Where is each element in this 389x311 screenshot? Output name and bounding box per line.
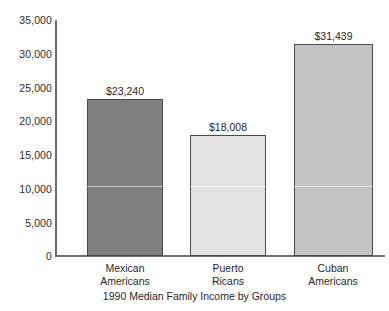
bar-cuban-americans	[294, 44, 373, 256]
y-tick-label: 25,000	[4, 83, 52, 93]
y-tick-5000: 5,000	[0, 218, 52, 228]
y-tick-10000: 10,000	[0, 184, 52, 194]
y-axis-line	[55, 20, 57, 257]
y-tick-label: 30,000	[4, 49, 52, 59]
bar-value-cuban-americans: $31,439	[294, 30, 373, 42]
y-tick-20000: 20,000	[0, 116, 52, 126]
y-tick-label: 15,000	[4, 150, 52, 160]
bar-mexican-americans	[87, 99, 163, 256]
chart-screenshot: 35,000 30,000 25,000 20,000 15,000 10,00…	[0, 0, 389, 311]
category-label-line-1: Puerto	[183, 262, 273, 275]
y-tick-15000: 15,000	[0, 150, 52, 160]
y-tick-25000: 25,000	[0, 83, 52, 93]
category-label-line-2: Americans	[80, 275, 170, 288]
y-tick-0: 0	[0, 251, 52, 261]
category-label-line-1: Mexican	[80, 262, 170, 275]
category-label-cuban-americans: Cuban Americans	[288, 262, 378, 288]
bar-chart-plot-area: 35,000 30,000 25,000 20,000 15,000 10,00…	[0, 0, 389, 311]
category-label-line-2: Ricans	[183, 275, 273, 288]
bar-value-mexican-americans: $23,240	[87, 85, 163, 97]
bar-value-puerto-ricans: $18,008	[190, 121, 266, 133]
category-label-line-1: Cuban	[288, 262, 378, 275]
chart-caption: 1990 Median Family Income by Groups	[0, 290, 389, 302]
y-tick-label: 0	[4, 251, 52, 261]
y-tick-label: 10,000	[4, 184, 52, 194]
bar-puerto-ricans	[190, 135, 266, 256]
category-label-line-2: Americans	[288, 275, 378, 288]
category-label-mexican-americans: Mexican Americans	[80, 262, 170, 288]
y-tick-label: 5,000	[4, 218, 52, 228]
y-tick-30000: 30,000	[0, 49, 52, 59]
category-label-puerto-ricans: Puerto Ricans	[183, 262, 273, 288]
y-tick-35000: 35,000	[0, 15, 52, 25]
y-tick-label: 35,000	[4, 15, 52, 25]
y-tick-label: 20,000	[4, 116, 52, 126]
